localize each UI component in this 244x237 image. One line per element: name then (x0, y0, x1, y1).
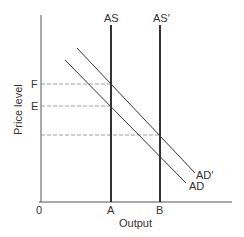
x-axis-label: Output (119, 217, 152, 229)
f-label: F (31, 78, 38, 90)
ad-prime-curve (77, 48, 195, 173)
as-label: AS (104, 12, 119, 24)
ad-curve (65, 60, 186, 183)
origin-label: 0 (36, 204, 42, 216)
y-axis-label: Price level (12, 84, 24, 135)
e-label: E (31, 100, 38, 112)
b-label: B (156, 204, 163, 216)
ad-label: AD (189, 180, 204, 192)
as-prime-label: AS′ (153, 12, 170, 24)
a-label: A (107, 204, 115, 216)
as-ad-diagram: AS AS′ AD′ AD F E 0 A B Output Price lev… (0, 0, 244, 237)
